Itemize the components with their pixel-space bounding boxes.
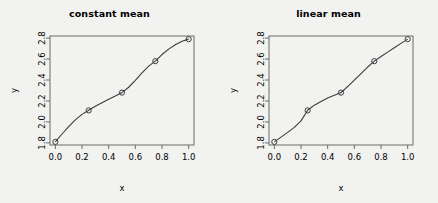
posterior-mean-curve [274,39,407,142]
x-axis-tick-label: 0.0 [49,152,63,162]
plot-area-constant-mean: 0.00.20.40.60.81.01.82.02.22.42.62.8xy [0,0,219,203]
x-axis-tick-label: 0.2 [75,152,89,162]
y-axis-tick-label: 2.6 [256,52,266,66]
x-axis-tick-label: 0.0 [268,152,282,162]
x-axis-tick-label: 0.8 [374,152,388,162]
y-axis-tick-label: 2.6 [37,52,47,66]
y-axis-tick-label: 2.4 [37,73,47,87]
x-axis-tick-label: 0.8 [155,152,169,162]
x-axis-tick-label: 0.4 [102,152,116,162]
y-axis-title: y [9,88,19,93]
y-axis-tick-label: 1.8 [256,136,266,150]
y-axis-title: y [228,88,238,93]
x-axis-tick-label: 1.0 [182,152,196,162]
x-axis-tick-label: 1.0 [401,152,415,162]
y-axis-tick-label: 2.4 [256,73,266,87]
y-axis-tick-label: 2.2 [256,94,266,108]
plot-area-linear-mean: 0.00.20.40.60.81.01.82.02.22.42.62.8xy [219,0,438,203]
plot-box [50,36,194,145]
y-axis-tick-label: 2.2 [37,94,47,108]
posterior-mean-curve [55,39,188,142]
y-axis-tick-label: 2.0 [37,115,47,129]
chart-panel-linear-mean: linear mean 0.00.20.40.60.81.01.82.02.22… [219,0,438,203]
x-axis-tick-label: 0.2 [294,152,308,162]
x-axis-title: x [338,183,343,193]
y-axis-tick-label: 2.8 [37,31,47,45]
y-axis-tick-label: 1.8 [37,136,47,150]
y-axis-tick-label: 2.0 [256,115,266,129]
x-axis-tick-label: 0.4 [321,152,335,162]
figure-panels: constant mean 0.00.20.40.60.81.01.82.02.… [0,0,438,203]
x-axis-tick-label: 0.6 [348,152,362,162]
y-axis-tick-label: 2.8 [256,31,266,45]
x-axis-tick-label: 0.6 [129,152,143,162]
chart-panel-constant-mean: constant mean 0.00.20.40.60.81.01.82.02.… [0,0,219,203]
x-axis-title: x [119,183,124,193]
plot-box [269,36,413,145]
